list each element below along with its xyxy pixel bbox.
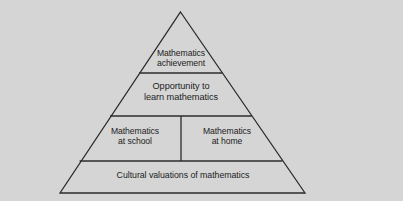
tier-label-mathematics-at-school: Mathematics at school: [92, 126, 178, 147]
tier-label-mathematics-achievement: Mathematics achievement: [128, 48, 234, 69]
tier-label-opportunity-to-learn: Opportunity to learn mathematics: [114, 81, 248, 103]
tier-label-mathematics-at-home: Mathematics at home: [184, 126, 270, 147]
pyramid-figure: Mathematics achievement Opportunity to l…: [0, 0, 420, 209]
tier-label-cultural-valuations: Cultural valuations of mathematics: [66, 170, 300, 180]
